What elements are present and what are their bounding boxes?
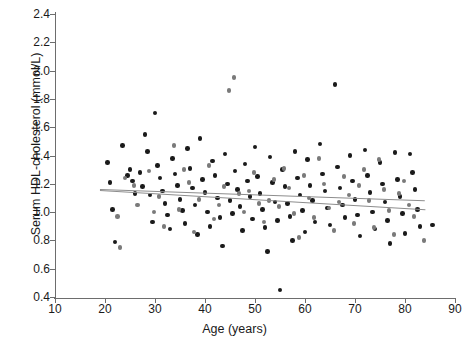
data-point: [403, 231, 408, 236]
data-point: [155, 163, 160, 168]
data-point: [245, 179, 250, 184]
data-point: [322, 182, 327, 187]
data-point: [317, 156, 322, 161]
data-point: [193, 203, 198, 208]
data-point: [350, 179, 355, 184]
data-point: [220, 244, 225, 249]
data-point: [105, 160, 110, 165]
data-point: [335, 165, 340, 170]
data-point: [368, 190, 373, 195]
data-point: [123, 176, 128, 181]
data-point: [205, 210, 210, 215]
data-point: [150, 220, 155, 225]
y-tick-label-wrap: 2.4: [8, 8, 50, 20]
data-point: [158, 176, 163, 181]
data-point: [247, 189, 252, 194]
data-point: [290, 238, 295, 243]
data-point: [318, 142, 323, 147]
data-point: [260, 207, 265, 212]
data-point: [408, 152, 413, 157]
data-point: [120, 143, 125, 148]
data-point: [243, 162, 248, 167]
x-tick-label: 70: [335, 303, 375, 315]
data-point: [293, 149, 298, 154]
data-point: [338, 186, 343, 191]
data-point: [292, 211, 297, 216]
data-point: [422, 238, 427, 243]
x-tick-label: 60: [285, 303, 325, 315]
x-tick-label: 40: [185, 303, 225, 315]
data-point: [147, 169, 152, 174]
data-point: [365, 173, 370, 178]
data-point: [370, 210, 375, 215]
data-point: [240, 228, 245, 233]
data-point: [118, 245, 123, 250]
data-point: [277, 204, 282, 209]
data-point: [362, 167, 367, 172]
data-point: [380, 182, 385, 187]
data-point: [327, 206, 332, 211]
data-point: [228, 198, 233, 203]
data-point: [282, 166, 287, 171]
data-point: [395, 177, 400, 182]
data-point: [392, 232, 397, 237]
data-point: [332, 228, 337, 233]
x-tick-label: 10: [35, 303, 75, 315]
data-point: [217, 203, 222, 208]
data-point: [212, 217, 217, 222]
y-tick-label-wrap: 1.8: [8, 93, 50, 105]
data-point: [178, 197, 183, 202]
data-point: [328, 223, 333, 228]
data-point: [182, 167, 187, 172]
data-point: [187, 180, 192, 185]
y-tick-label: 1.4: [16, 150, 50, 162]
data-point: [413, 187, 418, 192]
data-point: [402, 179, 407, 184]
data-point: [262, 220, 267, 225]
data-point: [252, 170, 257, 175]
y-tick-label-wrap: 2.0: [8, 65, 50, 77]
x-tick-label: 90: [435, 303, 469, 315]
data-point: [177, 207, 182, 212]
data-point: [183, 221, 188, 226]
y-tick-label: 1.0: [16, 206, 50, 218]
data-point: [255, 174, 260, 179]
data-point: [352, 221, 357, 226]
data-point: [113, 240, 118, 245]
x-tick-label: 20: [85, 303, 125, 315]
data-point: [162, 224, 167, 229]
data-point: [357, 183, 362, 188]
data-point: [242, 210, 247, 215]
data-point: [323, 189, 328, 194]
y-tick-label: 2.0: [16, 65, 50, 77]
data-point: [170, 156, 175, 161]
y-tick-label-wrap: 1.2: [8, 178, 50, 190]
data-point: [110, 207, 115, 212]
data-point: [145, 149, 150, 154]
data-point: [173, 172, 178, 177]
data-point: [138, 170, 143, 175]
data-point: [342, 174, 347, 179]
data-point: [132, 183, 137, 188]
data-point: [393, 150, 398, 155]
data-point: [410, 170, 415, 175]
data-point: [287, 186, 292, 191]
data-point: [128, 167, 133, 172]
data-point: [295, 176, 300, 181]
data-point: [253, 145, 258, 150]
data-point: [230, 211, 235, 216]
y-tick-label: 1.2: [16, 178, 50, 190]
data-point: [305, 157, 310, 162]
data-point: [223, 152, 228, 157]
y-tick-label: 1.6: [16, 121, 50, 133]
data-point: [407, 203, 412, 208]
data-point: [388, 241, 393, 246]
data-point: [140, 184, 145, 189]
data-point: [265, 249, 270, 254]
data-point: [185, 146, 190, 151]
data-point: [275, 218, 280, 223]
data-point: [355, 213, 360, 218]
data-point: [382, 187, 387, 192]
data-point: [195, 232, 200, 237]
y-tick-label-wrap: 0.4: [8, 291, 50, 303]
